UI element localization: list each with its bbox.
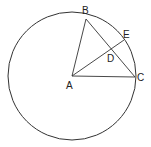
segment-ac (72, 76, 135, 77)
label-d: D (107, 53, 114, 64)
segment-bc (86, 19, 135, 77)
geometry-diagram: A B C D E (0, 0, 151, 147)
label-b: B (82, 5, 89, 16)
label-a: A (66, 80, 73, 91)
label-e: E (123, 29, 130, 40)
label-c: C (137, 72, 144, 83)
